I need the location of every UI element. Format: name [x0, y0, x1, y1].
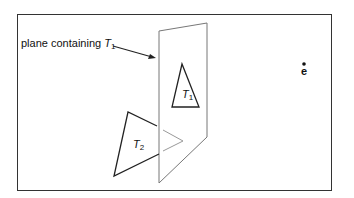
triangle-t1-label: T1	[182, 88, 193, 102]
plane-arrow	[113, 46, 152, 57]
triangle-t2-label: T2	[133, 138, 144, 152]
plane	[159, 23, 207, 183]
plane-label: plane containing T1	[21, 37, 115, 51]
diagram-canvas	[0, 0, 354, 198]
eye-label: e	[301, 65, 307, 77]
arrow-head-icon	[148, 54, 156, 59]
projection-t2	[163, 130, 183, 151]
